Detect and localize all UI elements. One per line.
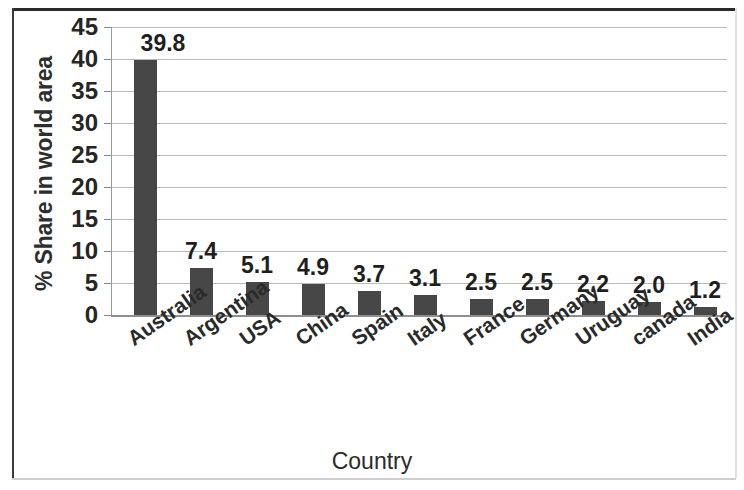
y-axis-tick-mark xyxy=(104,91,111,92)
y-axis-tick-label: 0 xyxy=(42,303,98,327)
plot-area: 39.87.45.14.93.73.12.52.52.22.01.2 xyxy=(111,27,727,315)
y-axis-tick-mark xyxy=(104,59,111,60)
y-axis-tick-mark xyxy=(104,315,111,316)
y-axis-tick-mark xyxy=(104,27,111,28)
gridline xyxy=(111,27,727,28)
gridline xyxy=(111,187,727,188)
y-axis-tick-label: 30 xyxy=(42,111,98,135)
y-axis-tick-mark xyxy=(104,219,111,220)
y-axis-tick-label: 20 xyxy=(42,175,98,199)
y-axis-tick-mark xyxy=(104,283,111,284)
y-axis-line xyxy=(111,27,112,316)
y-axis-tick-label: 10 xyxy=(42,239,98,263)
y-axis-tick-label: 25 xyxy=(42,143,98,167)
y-axis-tick-mark xyxy=(104,123,111,124)
y-axis-tick-label: 40 xyxy=(42,47,98,71)
y-axis-tick-label: 45 xyxy=(42,15,98,39)
y-axis-tick-mark xyxy=(104,251,111,252)
gridline xyxy=(111,123,727,124)
gridline xyxy=(111,155,727,156)
x-axis-title: Country xyxy=(0,448,744,475)
frame-border-bottom xyxy=(12,478,736,480)
gridline xyxy=(111,59,727,60)
frame-border-right xyxy=(735,8,737,478)
y-axis-tick-label: 35 xyxy=(42,79,98,103)
gridline xyxy=(111,91,727,92)
y-axis-tick-mark xyxy=(104,155,111,156)
bar xyxy=(134,60,157,315)
y-axis-tick-label: 15 xyxy=(42,207,98,231)
gridline xyxy=(111,219,727,220)
y-axis-tick-label: 5 xyxy=(42,271,98,295)
bar-value-label: 39.8 xyxy=(128,30,198,57)
frame-border-left xyxy=(12,8,14,478)
frame-border-top xyxy=(12,8,736,11)
y-axis-tick-mark xyxy=(104,187,111,188)
chart-screenshot: % Share in world area 051015202530354045… xyxy=(0,0,744,490)
